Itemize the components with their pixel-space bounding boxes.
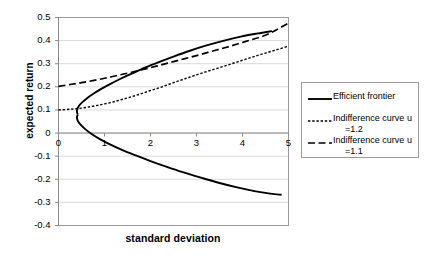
y-tick-label: -0.2 [25,173,51,184]
x-axis-title: standard deviation [58,232,288,244]
gridlines [59,41,289,203]
zero-axis-line [59,18,289,226]
legend-line-sample-solid [307,94,333,104]
series-line [77,115,282,195]
chart-container: expected return standard deviation 0.50.… [0,0,439,259]
plot-border [59,18,289,226]
chart-legend: Efficient frontierIndifference curve u=1… [301,82,419,158]
series-line [59,23,289,86]
y-tick-label: 0.1 [25,103,51,114]
data-series [59,23,289,195]
y-tick-label: 0.5 [25,11,51,22]
legend-label: Indifference curve u=1.2 [333,113,415,134]
y-tick-label: -0.1 [25,150,51,161]
y-tick-label: 0 [25,127,51,138]
legend-line-sample-dotted [307,116,333,126]
legend-label: Indifference curve u=1.1 [333,135,415,156]
x-tick-label: 4 [235,137,251,148]
y-tick-label: 0.4 [25,34,51,45]
x-tick-label: 1 [97,137,113,148]
y-tick-label: 0.2 [25,80,51,91]
axis-tickmarks [55,18,289,226]
x-tick-label: 3 [189,137,205,148]
legend-line-sample-dashed [307,138,333,148]
legend-entry: Efficient frontier [307,91,415,104]
series-line [77,31,272,114]
y-tick-label: -0.4 [25,219,51,230]
legend-entry: Indifference curve u=1.2 [307,113,415,134]
x-tick-label: 5 [281,137,297,148]
x-tick-label: 2 [143,137,159,148]
legend-label: Efficient frontier [333,91,415,102]
legend-entry: Indifference curve u=1.1 [307,135,415,156]
y-tick-label: 0.3 [25,57,51,68]
x-tick-label: 0 [51,137,67,148]
y-tick-label: -0.3 [25,196,51,207]
